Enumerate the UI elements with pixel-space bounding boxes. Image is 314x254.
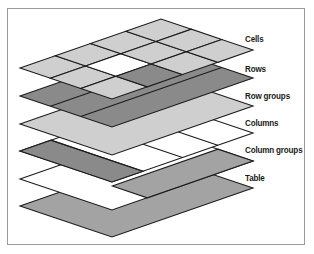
label-row-groups: Row groups xyxy=(245,90,290,101)
label-cells: Cells xyxy=(245,33,263,44)
label-column-groups: Column groups xyxy=(245,144,302,155)
label-columns: Columns xyxy=(245,117,278,128)
label-table: Table xyxy=(245,172,265,183)
label-rows: Rows xyxy=(245,63,266,74)
